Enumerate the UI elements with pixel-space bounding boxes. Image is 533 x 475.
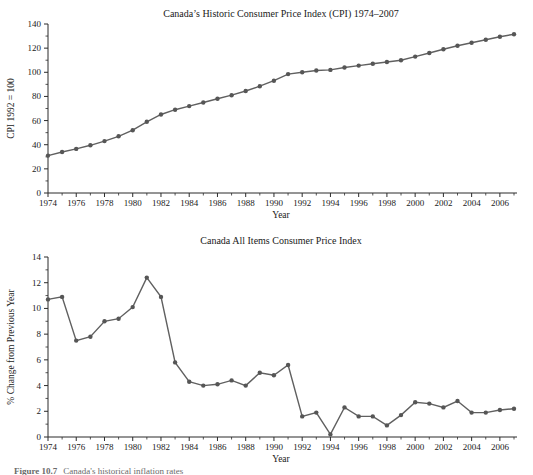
x-tick-label: 1982 (152, 442, 170, 452)
data-point-1981 (145, 120, 149, 124)
data-point-1975 (60, 295, 64, 299)
data-point-2004 (469, 41, 473, 45)
data-point-1996 (357, 63, 361, 67)
data-point-1978 (102, 139, 106, 143)
x-tick-label: 1974 (39, 198, 58, 208)
y-tick-label: 0 (37, 188, 42, 198)
y-tick-label: 14 (32, 252, 42, 262)
figure-caption: Figure 10.7Canada's historical inflation… (14, 464, 514, 475)
data-point-2002 (441, 405, 445, 409)
x-tick-label: 2002 (434, 442, 452, 452)
y-tick-label: 40 (32, 140, 42, 150)
data-point-1999 (399, 413, 403, 417)
x-tick-label: 1980 (124, 442, 143, 452)
data-point-2006 (498, 408, 502, 412)
data-point-1974 (46, 153, 50, 157)
data-point-1983 (173, 360, 177, 364)
data-point-1976 (74, 147, 78, 151)
data-point-2000 (413, 400, 417, 404)
data-points (46, 275, 516, 436)
data-point-1984 (187, 104, 191, 108)
data-point-2001 (427, 51, 431, 55)
data-point-1993 (314, 410, 318, 414)
x-tick-label: 1986 (208, 442, 227, 452)
y-tick-label: 80 (32, 91, 42, 101)
textbook-figure-page: Canada’s Historic Consumer Price Index (… (0, 0, 533, 475)
x-tick-label: 1988 (237, 442, 256, 452)
y-axis-label: CPI 1992 = 100 (6, 78, 16, 139)
data-point-1998 (385, 423, 389, 427)
data-point-1997 (371, 62, 375, 66)
x-tick-label: 1992 (293, 442, 311, 452)
x-tick-label: 1988 (237, 198, 256, 208)
data-point-1979 (116, 134, 120, 138)
y-tick-label: 120 (28, 43, 42, 53)
data-point-1989 (258, 371, 262, 375)
x-tick-label: 2006 (491, 442, 510, 452)
x-tick-label: 2004 (463, 198, 482, 208)
data-point-2004 (469, 410, 473, 414)
data-point-2007 (512, 32, 516, 36)
y-tick-label: 100 (28, 67, 42, 77)
x-ticks: 1974197619781980198219841986198819901992… (39, 437, 514, 452)
data-point-1984 (187, 380, 191, 384)
cpi-inflation-chart-canvas: Canada All Items Consumer Price Index024… (0, 230, 533, 463)
y-tick-label: 2 (37, 406, 42, 416)
x-tick-label: 1992 (293, 198, 311, 208)
x-tick-label: 1998 (378, 198, 397, 208)
x-tick-label: 1974 (39, 442, 58, 452)
x-tick-label: 1994 (321, 442, 340, 452)
data-point-1994 (328, 432, 332, 436)
x-tick-label: 1978 (95, 442, 114, 452)
data-point-1987 (229, 93, 233, 97)
y-tick-label: 4 (37, 381, 42, 391)
y-tick-label: 10 (32, 303, 42, 313)
x-tick-label: 2004 (463, 442, 482, 452)
data-point-1999 (399, 58, 403, 62)
y-tick-label: 0 (37, 432, 42, 442)
x-tick-label: 1978 (95, 198, 114, 208)
data-point-1981 (145, 275, 149, 279)
chart-title: Canada All Items Consumer Price Index (200, 235, 361, 246)
x-tick-label: 1994 (321, 198, 340, 208)
x-tick-label: 1976 (67, 442, 86, 452)
data-point-1977 (88, 143, 92, 147)
x-tick-label: 1976 (67, 198, 86, 208)
data-point-1992 (300, 414, 304, 418)
data-point-2005 (484, 38, 488, 42)
data-point-1985 (201, 100, 205, 104)
data-point-1982 (159, 112, 163, 116)
data-point-1974 (46, 297, 50, 301)
data-point-1980 (131, 128, 135, 132)
x-tick-label: 2000 (406, 442, 425, 452)
data-point-1989 (258, 84, 262, 88)
x-tick-label: 1996 (350, 442, 369, 452)
data-point-1992 (300, 70, 304, 74)
x-axis-label: Year (272, 454, 290, 464)
data-point-1985 (201, 383, 205, 387)
data-point-1986 (215, 97, 219, 101)
data-point-1987 (229, 378, 233, 382)
data-point-1990 (272, 373, 276, 377)
data-point-2006 (498, 35, 502, 39)
y-tick-label: 20 (32, 164, 42, 174)
y-ticks: 020406080100120140 (28, 19, 49, 198)
x-axis-label: Year (272, 210, 290, 220)
data-point-2002 (441, 47, 445, 51)
data-point-1979 (116, 317, 120, 321)
data-point-1997 (371, 414, 375, 418)
x-tick-label: 1984 (180, 442, 199, 452)
data-point-1990 (272, 79, 276, 83)
data-point-2003 (455, 44, 459, 48)
data-point-1991 (286, 363, 290, 367)
series-line (48, 278, 514, 435)
x-ticks: 1974197619781980198219841986198819901992… (39, 193, 514, 208)
cpi-level-chart: Canada’s Historic Consumer Price Index (… (0, 0, 533, 230)
data-point-1983 (173, 108, 177, 112)
figure-caption-label: Figure 10.7 (14, 466, 57, 475)
x-tick-label: 1990 (265, 198, 284, 208)
data-point-1978 (102, 319, 106, 323)
data-point-1994 (328, 68, 332, 72)
x-tick-label: 2000 (406, 198, 425, 208)
data-point-1995 (342, 405, 346, 409)
